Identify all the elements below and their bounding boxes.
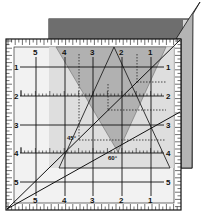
bottom-label: 1 [148,196,153,205]
right-label: 2 [166,92,171,101]
top-label: 3 [90,48,95,57]
left-label: 1 [14,63,19,72]
right-label: 3 [166,121,171,130]
left-label: 4 [14,149,19,158]
angle-45-label: 45° [67,135,77,141]
bottom-label: 4 [62,196,67,205]
ruler-diagram: 5 4 3 2 1 5 4 3 2 1 1 2 3 4 5 1 2 3 4 5 … [0,0,204,216]
diagram-canvas: 5 4 3 2 1 5 4 3 2 1 1 2 3 4 5 1 2 3 4 5 … [0,0,204,216]
fabric-top-band [49,19,183,39]
left-label: 2 [14,92,19,101]
top-label: 2 [119,48,124,57]
left-label: 3 [14,121,19,130]
bottom-label: 5 [33,196,38,205]
bottom-label: 2 [119,196,124,205]
right-label: 1 [166,63,171,72]
top-label: 5 [33,48,38,57]
top-label: 1 [148,48,153,57]
right-label: 4 [166,149,171,158]
top-label: 4 [62,48,67,57]
angle-60-label: 60° [108,155,118,161]
left-label: 5 [14,178,19,187]
right-label: 5 [166,178,171,187]
bottom-label: 3 [90,196,95,205]
